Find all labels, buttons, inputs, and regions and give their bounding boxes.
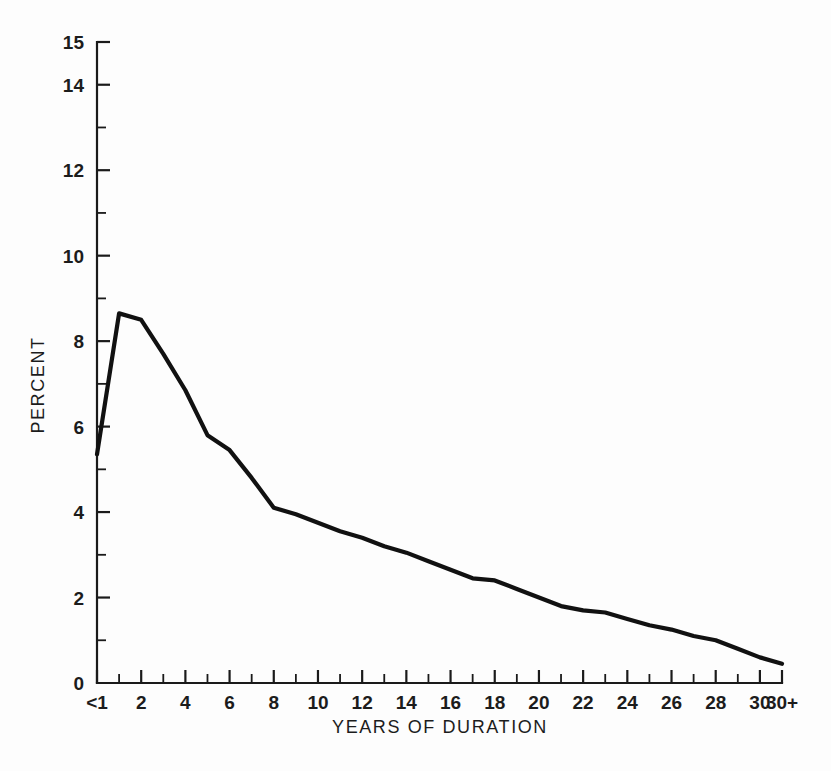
x-tick-label: 8 bbox=[268, 692, 279, 713]
x-tick-label: 2 bbox=[136, 692, 147, 713]
y-tick-label: 15 bbox=[63, 32, 85, 53]
y-tick-label: 8 bbox=[73, 331, 84, 352]
data-series-line bbox=[97, 313, 782, 663]
x-axis-title: YEARS OF DURATION bbox=[332, 717, 548, 737]
y-tick-label: 2 bbox=[73, 588, 84, 609]
y-tick-label: 10 bbox=[63, 246, 84, 267]
x-axis-tick-labels: <12468101214161820222426283030+ bbox=[86, 692, 798, 713]
y-axis-tick-labels: 0246810121415 bbox=[63, 32, 85, 694]
x-tick-label: 28 bbox=[705, 692, 726, 713]
x-tick-label: 16 bbox=[440, 692, 461, 713]
y-axis bbox=[97, 42, 110, 683]
x-tick-label: 30+ bbox=[766, 692, 798, 713]
x-tick-label: 4 bbox=[180, 692, 191, 713]
x-axis bbox=[97, 670, 782, 683]
x-tick-label: <1 bbox=[86, 692, 108, 713]
y-tick-label: 0 bbox=[73, 673, 84, 694]
x-tick-label: 24 bbox=[617, 692, 639, 713]
y-tick-label: 4 bbox=[73, 502, 84, 523]
chart-figure: 0246810121415 <1246810121416182022242628… bbox=[0, 0, 831, 771]
line-chart-plot: 0246810121415 <1246810121416182022242628… bbox=[0, 0, 831, 771]
x-tick-label: 6 bbox=[224, 692, 235, 713]
x-tick-label: 18 bbox=[484, 692, 505, 713]
x-tick-label: 12 bbox=[352, 692, 373, 713]
x-tick-label: 14 bbox=[396, 692, 418, 713]
x-tick-label: 20 bbox=[528, 692, 549, 713]
y-tick-label: 14 bbox=[63, 75, 85, 96]
y-axis-title: PERCENT bbox=[28, 336, 48, 433]
x-tick-label: 22 bbox=[573, 692, 594, 713]
y-tick-label: 6 bbox=[73, 417, 84, 438]
x-tick-label: 26 bbox=[661, 692, 682, 713]
y-tick-label: 12 bbox=[63, 160, 84, 181]
x-tick-label: 10 bbox=[307, 692, 328, 713]
